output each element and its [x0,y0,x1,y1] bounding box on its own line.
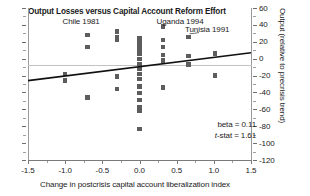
tstat-value: -stat = 1.61 [217,131,256,140]
beta-statistic: beta = 0.11 [217,120,256,129]
y-axis-title: Output (relative to precrisis trend) [275,8,287,160]
chart-figure: Output Losses versus Capital Account Ref… [0,0,310,196]
tunisia-leader-line [0,0,310,196]
x-axis-title: Change in postcrisis capital account lib… [0,180,270,189]
annotation-chile: Chile 1981 [62,17,99,26]
annotation-tunisia: Tunisia 1991 [185,25,229,34]
tstat-statistic: t-stat = 1.61 [215,131,256,140]
